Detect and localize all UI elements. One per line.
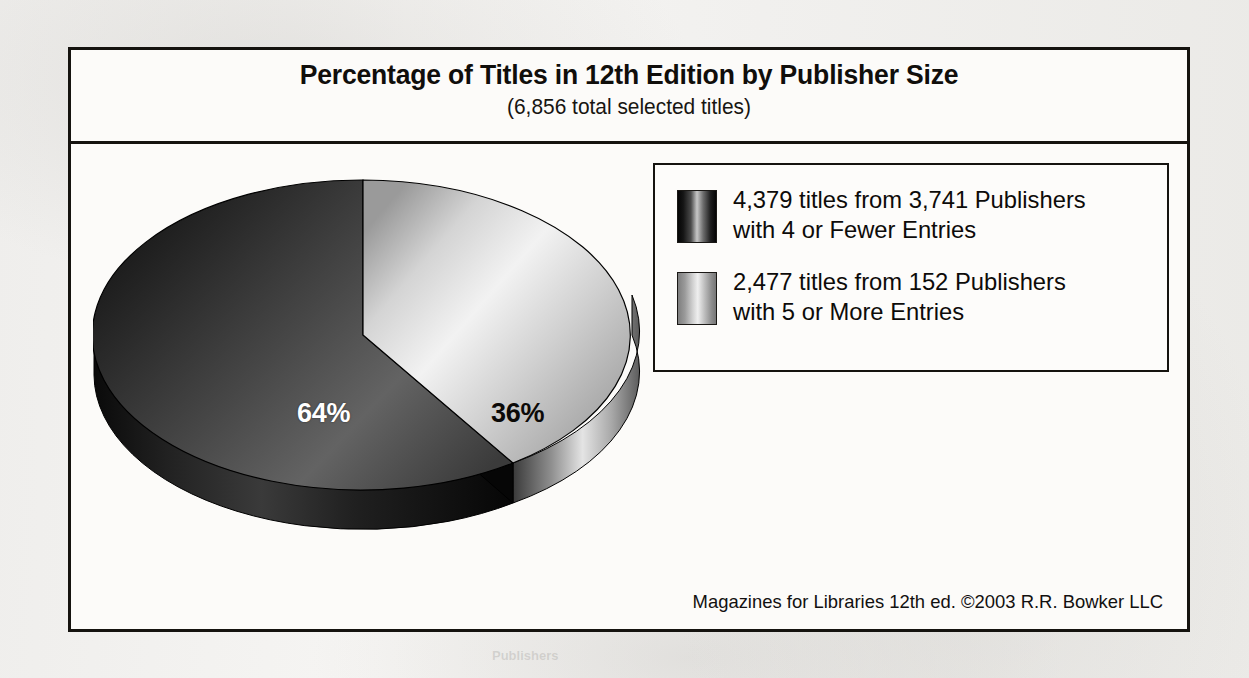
legend-label-minor-line1: 2,477 titles from 152 Publishers (733, 267, 1066, 297)
pie-chart-svg (93, 168, 673, 568)
page-title: Percentage of Titles in 12th Edition by … (91, 50, 1168, 91)
pie-label-minor: 36% (491, 398, 544, 429)
legend: 4,379 titles from 3,741 Publishers with … (653, 163, 1169, 372)
page-subtitle: (6,856 total selected titles) (99, 91, 1159, 120)
legend-label-minor-line2: with 5 or More Entries (733, 297, 1066, 327)
chart-frame: Percentage of Titles in 12th Edition by … (68, 47, 1190, 632)
plot-area: 64% 36% 4,379 titles from 3,741 Publishe… (71, 144, 1187, 629)
legend-item-major: 4,379 titles from 3,741 Publishers with … (655, 165, 1167, 245)
legend-label-major: 4,379 titles from 3,741 Publishers with … (733, 185, 1086, 245)
legend-label-major-line1: 4,379 titles from 3,741 Publishers (733, 185, 1086, 215)
legend-swatch-minor-icon (677, 272, 717, 325)
legend-label-major-line2: with 4 or Fewer Entries (733, 215, 1086, 245)
pie-label-major: 64% (297, 398, 350, 429)
source-attribution: Magazines for Libraries 12th ed. ©2003 R… (693, 591, 1163, 613)
ghost-mark-6: Publishers (492, 648, 558, 663)
legend-item-minor: 2,477 titles from 152 Publishers with 5 … (655, 245, 1167, 327)
legend-label-minor: 2,477 titles from 152 Publishers with 5 … (733, 267, 1066, 327)
pie-chart: 64% 36% (93, 168, 673, 568)
title-block: Percentage of Titles in 12th Edition by … (71, 50, 1187, 144)
legend-swatch-major-icon (677, 190, 717, 243)
